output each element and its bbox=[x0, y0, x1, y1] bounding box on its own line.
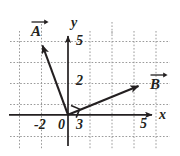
x-tick-minus2: -2 bbox=[34, 118, 46, 132]
x-tick-0: 0 bbox=[58, 118, 65, 132]
grid-lines bbox=[10, 31, 170, 150]
vector-b-overbar-icon bbox=[150, 72, 160, 77]
y-tick-2: 2 bbox=[76, 74, 83, 88]
x-tick-5: 5 bbox=[140, 117, 147, 131]
x-axis-label: x bbox=[159, 108, 166, 122]
y-tick-5: 5 bbox=[76, 34, 83, 48]
x-tick-3: 3 bbox=[76, 118, 83, 132]
vector-diagram-figure: A B x y -2 0 3 5 5 2 bbox=[0, 0, 180, 156]
vector-b-label: B bbox=[150, 72, 160, 92]
vector-a-label: A bbox=[31, 19, 41, 39]
y-axis-label: y bbox=[71, 16, 77, 30]
vector-a-overbar-icon bbox=[31, 19, 41, 24]
